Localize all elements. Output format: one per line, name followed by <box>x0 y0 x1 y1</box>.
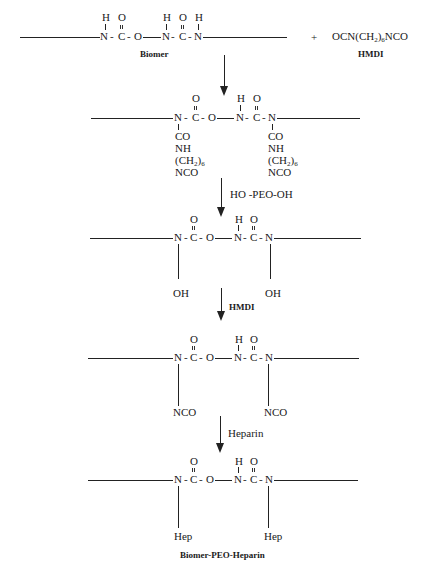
atom-o-carbonyl: O <box>190 456 198 467</box>
bond-dash: - <box>199 474 203 485</box>
bond-dash: - <box>243 352 247 363</box>
reagent-label-peo: HO -PEO-OH <box>230 189 293 200</box>
branch-nco: NCO <box>175 167 198 178</box>
arrow-head-icon <box>217 207 225 217</box>
atom-o-carbonyl: O <box>250 334 258 345</box>
atom-h: H <box>235 334 243 345</box>
bond-double <box>194 106 197 110</box>
arrow-head-icon <box>217 311 225 321</box>
polymer-chain-left <box>88 358 173 359</box>
atom-o-carbonyl: O <box>190 214 198 225</box>
atom-o-carbonyl: O <box>118 12 126 23</box>
bond-dash: - <box>184 112 188 123</box>
atom-c: C <box>179 31 186 42</box>
bond-dash: - <box>199 232 203 243</box>
atom-o-carbonyl: O <box>190 334 198 345</box>
bond-dash: - <box>245 112 249 123</box>
atom-n: N <box>234 232 242 243</box>
bond-dash: - <box>199 352 203 363</box>
bond-dash: - <box>110 31 114 42</box>
bond-dash: - <box>184 474 188 485</box>
reagent-label-heparin: Heparin <box>228 428 263 439</box>
bond-o-n <box>215 358 232 359</box>
subscript: 6 <box>201 160 205 168</box>
plus-sign: + <box>311 32 317 43</box>
reaction-arrow <box>221 178 222 208</box>
formula-part: NCO <box>385 30 408 42</box>
atom-h: H <box>163 12 171 23</box>
atom-h: H <box>235 456 243 467</box>
bond-double <box>252 468 255 472</box>
atom-o-carbonyl: O <box>192 93 200 104</box>
branch-nh: NH <box>175 143 191 154</box>
atom-o-ester: O <box>206 474 214 485</box>
polymer-chain-right <box>277 118 360 119</box>
pendant-nco: NCO <box>264 407 287 418</box>
atom-o-ester: O <box>208 112 216 123</box>
arrow-head-icon <box>216 443 224 453</box>
bond-dash: - <box>184 352 188 363</box>
bond-double <box>255 106 258 110</box>
atom-n: N <box>268 112 276 123</box>
atom-c: C <box>190 474 197 485</box>
bond-dash: - <box>259 232 263 243</box>
atom-n: N <box>100 31 108 42</box>
polymer-chain-left <box>90 238 173 239</box>
polymer-chain-right <box>203 37 287 38</box>
atom-o-ester: O <box>134 31 142 42</box>
bond-dash: - <box>262 112 266 123</box>
formula-part: (CH <box>175 154 194 166</box>
pendant-nco: NCO <box>173 407 196 418</box>
atom-n: N <box>194 31 202 42</box>
bond-dash: - <box>184 232 188 243</box>
bond-dash: - <box>188 31 192 42</box>
bond-pendant <box>268 364 269 406</box>
atom-n: N <box>174 232 182 243</box>
branch-nco: NCO <box>268 167 291 178</box>
pendant-oh: OH <box>265 288 281 299</box>
bond-double <box>192 468 195 472</box>
branch-nh: NH <box>268 143 284 154</box>
subscript: 6 <box>294 160 298 168</box>
bond-o-n <box>143 37 161 38</box>
bond-dash: - <box>243 232 247 243</box>
hmdi-formula: OCN(CH2)6NCO <box>332 31 408 46</box>
polymer-chain-left <box>88 480 173 481</box>
bond-double <box>192 346 195 350</box>
atom-h: H <box>235 214 243 225</box>
bond-pendant <box>178 364 179 406</box>
atom-o-carbonyl: O <box>179 12 187 23</box>
bond-pendant <box>178 244 179 279</box>
formula-part: (CH <box>268 154 287 166</box>
atom-c: C <box>192 112 199 123</box>
atom-c: C <box>250 232 257 243</box>
atom-c: C <box>250 474 257 485</box>
product-label: Biomer-PEO-Heparin <box>180 550 265 560</box>
atom-o-ester: O <box>206 232 214 243</box>
atom-h: H <box>195 12 203 23</box>
polymer-chain-right <box>274 480 358 481</box>
atom-c: C <box>190 352 197 363</box>
bond-pendant <box>270 244 271 279</box>
atom-o-ester: O <box>206 352 214 363</box>
atom-n: N <box>265 352 273 363</box>
atom-n: N <box>174 474 182 485</box>
biomer-label: Biomer <box>140 49 169 59</box>
bond-double <box>252 346 255 350</box>
bond-double <box>192 226 195 230</box>
atom-h: H <box>102 12 110 23</box>
reagent-label-hmdi: HMDI <box>229 302 255 312</box>
reaction-arrow <box>220 416 221 444</box>
polymer-chain-right <box>274 358 359 359</box>
pendant-oh: OH <box>173 288 189 299</box>
atom-n: N <box>234 474 242 485</box>
polymer-chain-right <box>274 238 361 239</box>
bond-o-n <box>215 480 232 481</box>
atom-o-carbonyl: O <box>250 214 258 225</box>
bond-dash: - <box>201 112 205 123</box>
reaction-arrow <box>224 55 225 87</box>
bond-dash: - <box>127 31 131 42</box>
pendant-heparin: Hep <box>264 531 282 542</box>
bond-dash: - <box>171 31 175 42</box>
atom-n: N <box>265 474 273 485</box>
